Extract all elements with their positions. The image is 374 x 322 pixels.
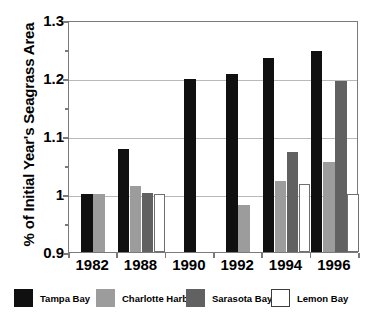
bar xyxy=(287,152,299,252)
seagrass-area-bar-chart: % of Initial Year's Seagrass Area 0.911.… xyxy=(0,0,374,322)
x-tick-mark xyxy=(116,253,118,258)
legend-label: Tampa Bay xyxy=(40,293,90,304)
bar xyxy=(311,51,323,252)
y-tick-label: 1 xyxy=(4,187,64,202)
bar-group xyxy=(118,20,166,252)
x-tick-mark xyxy=(68,253,70,258)
y-tick-label: 1.1 xyxy=(4,129,64,144)
x-tick-label: 1996 xyxy=(304,256,364,273)
bar-group xyxy=(226,20,250,252)
bar xyxy=(323,162,335,252)
bar xyxy=(154,194,166,252)
y-tick-label: 1.2 xyxy=(4,71,64,86)
y-tick-label: 1.3 xyxy=(4,13,64,28)
legend-item-lemon[interactable]: Lemon Bay xyxy=(271,288,348,308)
legend-swatch-charlotte xyxy=(96,289,115,307)
plot-area xyxy=(68,21,358,253)
bar-group xyxy=(81,20,105,252)
x-tick-mark xyxy=(358,253,360,258)
bar xyxy=(238,205,250,252)
legend-item-charlotte[interactable]: Charlotte Harbor xyxy=(96,288,197,308)
legend-swatch-lemon xyxy=(271,289,290,307)
legend-item-tampa[interactable]: Tampa Bay xyxy=(14,288,90,308)
bar xyxy=(275,181,287,252)
legend-label: Lemon Bay xyxy=(297,293,348,304)
x-tick-mark xyxy=(213,253,215,258)
legend-label: Sarasota Bay xyxy=(212,293,272,304)
bar xyxy=(118,149,130,252)
bar xyxy=(81,194,93,252)
bar xyxy=(142,193,154,252)
x-tick-mark xyxy=(261,253,263,258)
bar xyxy=(93,194,105,252)
bar xyxy=(347,194,359,252)
bar xyxy=(130,186,142,252)
bar-group xyxy=(311,20,359,252)
bar-group xyxy=(263,20,311,252)
x-tick-mark xyxy=(310,253,312,258)
bar xyxy=(263,58,275,252)
bar xyxy=(299,184,311,252)
legend-swatch-sarasota xyxy=(186,289,205,307)
y-tick-label: 0.9 xyxy=(4,245,64,260)
chart-legend: Tampa BayCharlotte HarborSarasota BayLem… xyxy=(0,288,374,310)
bar xyxy=(335,81,347,252)
bar-group xyxy=(184,20,196,252)
x-tick-mark xyxy=(165,253,167,258)
bar xyxy=(184,79,196,252)
legend-swatch-tampa xyxy=(14,289,33,307)
bar xyxy=(226,74,238,252)
legend-item-sarasota[interactable]: Sarasota Bay xyxy=(186,288,272,308)
